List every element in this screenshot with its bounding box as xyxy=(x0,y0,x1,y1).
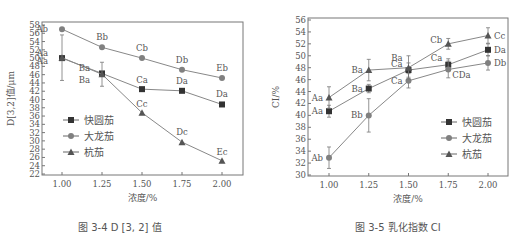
y-tick-label: 38 xyxy=(295,122,306,132)
x-axis-label: 浓度/% xyxy=(128,192,158,203)
legend-label: 快圆茄 xyxy=(84,114,114,126)
significance-label: Ba xyxy=(79,63,90,73)
significance-label: Bb xyxy=(96,32,108,42)
significance-label: Da xyxy=(216,89,228,99)
significance-label: Ec xyxy=(217,147,228,157)
legend: 快圆茄大龙茄杭茄 xyxy=(441,116,492,160)
series-square: AaBaCaDaDa xyxy=(36,55,228,107)
y-tick-label: 32 xyxy=(295,158,306,168)
significance-label: Cb xyxy=(136,43,149,53)
y-tick-label: 46 xyxy=(295,75,306,85)
y-tick-label: 54 xyxy=(295,27,306,37)
triangle-marker-icon xyxy=(219,157,226,164)
x-tick-label: 1.25 xyxy=(359,180,378,190)
legend-label: 大龙茄 xyxy=(462,132,492,144)
significance-label: Ca xyxy=(391,76,403,86)
significance-label: Aa xyxy=(311,93,323,103)
square-marker-icon xyxy=(485,47,491,53)
x-tick-label: 1.75 xyxy=(173,179,192,189)
circle-marker-icon xyxy=(445,66,451,72)
legend-label: 杭茄 xyxy=(84,146,104,158)
significance-label: Ab xyxy=(35,24,48,34)
triangle-marker-icon xyxy=(326,94,333,101)
y-tick-label: 44 xyxy=(295,87,306,97)
circle-marker-icon xyxy=(179,67,185,73)
significance-label: Da xyxy=(494,45,506,55)
significance-label: Cc xyxy=(136,99,148,109)
significance-label: Ba xyxy=(351,84,362,94)
legend-label: 快圆茄 xyxy=(462,116,492,128)
square-marker-icon xyxy=(326,108,332,114)
y-tick-label: 48 xyxy=(295,63,306,73)
square-marker-icon xyxy=(366,86,372,92)
x-tick-label: 1.00 xyxy=(53,179,72,189)
circle-marker-icon xyxy=(366,112,372,118)
x-tick-label: 1.25 xyxy=(93,179,112,189)
x-axis-label: 浓度/% xyxy=(393,193,423,204)
series-circle: AbBbCbDbEb xyxy=(35,24,228,81)
significance-label: Ca xyxy=(431,53,443,63)
x-tick-label: 1.50 xyxy=(133,179,152,189)
circle-marker-icon xyxy=(485,60,491,66)
circle-marker-icon xyxy=(326,155,332,161)
y-tick-label: 36 xyxy=(295,134,306,144)
circle-marker-icon xyxy=(446,135,452,141)
legend-label: 杭茄 xyxy=(462,148,482,160)
circle-marker-icon xyxy=(59,26,65,32)
square-marker-icon xyxy=(179,88,185,94)
square-marker-icon xyxy=(68,117,74,123)
y-axis-label: D[3,2]值/μm xyxy=(5,71,16,126)
significance-label: Cc xyxy=(494,31,506,41)
legend: 快圆茄大龙茄杭茄 xyxy=(63,114,114,158)
series-triangle: AaBaBaCbCc xyxy=(311,28,506,108)
significance-label: Ca xyxy=(136,75,148,85)
y-axis-label: CI/% xyxy=(271,86,281,108)
series-triangle: AaBaCcDcEc xyxy=(36,35,228,164)
significance-label: Db xyxy=(176,55,189,65)
y-tick-label: 42 xyxy=(295,98,306,108)
legend-label: 大龙茄 xyxy=(84,130,114,142)
square-marker-icon xyxy=(139,86,145,92)
y-tick-label: 34 xyxy=(295,146,306,156)
figure-caption-left: 图 3-4 D [3, 2] 值 xyxy=(78,219,162,234)
circle-marker-icon xyxy=(68,133,74,139)
triangle-marker-icon xyxy=(179,139,186,146)
triangle-marker-icon xyxy=(485,32,492,39)
significance-label: Aa xyxy=(311,106,323,116)
significance-label: Da xyxy=(176,76,188,86)
significance-label: Ba xyxy=(391,53,402,63)
significance-label: CDa xyxy=(452,70,470,80)
significance-label: Bb xyxy=(351,110,363,120)
significance-label: Ba xyxy=(351,65,362,75)
x-tick-label: 1.75 xyxy=(439,180,458,190)
square-marker-icon xyxy=(446,119,452,125)
y-tick-label: 30 xyxy=(295,170,306,180)
significance-label: Aa xyxy=(36,48,48,58)
circle-marker-icon xyxy=(219,75,225,81)
significance-label: Cb xyxy=(430,35,443,45)
circle-marker-icon xyxy=(139,55,145,61)
significance-label: Eb xyxy=(216,63,228,73)
y-tick-label: 40 xyxy=(295,110,306,120)
y-tick-label: 56 xyxy=(295,15,306,25)
figure-caption-right: 图 3-5 乳化指数 CI xyxy=(355,219,441,234)
significance-label: Db xyxy=(494,58,507,68)
significance-label: Dc xyxy=(176,127,188,137)
x-tick-label: 1.00 xyxy=(320,180,339,190)
significance-label: Ba xyxy=(79,75,90,85)
y-tick-label: 50 xyxy=(295,51,306,61)
d32-chart: 222426283032343638404244464850525456581.… xyxy=(0,0,263,215)
ci-chart: 30323436384042444648505254561.001.251.50… xyxy=(263,0,526,215)
x-tick-label: 1.50 xyxy=(399,180,418,190)
significance-label: Ab xyxy=(310,153,323,163)
square-marker-icon xyxy=(219,101,225,107)
circle-marker-icon xyxy=(99,44,105,50)
x-tick-label: 2.00 xyxy=(213,179,232,189)
y-tick-label: 52 xyxy=(295,39,306,49)
x-tick-label: 2.00 xyxy=(479,180,498,190)
